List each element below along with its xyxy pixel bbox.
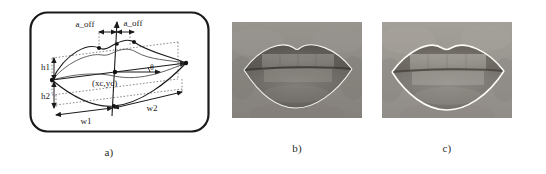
caption-a: a) (0, 146, 218, 158)
lip-model-diagram: a_off a_off h1 h2 w1 w2 (xc,yc) θ (0, 0, 218, 146)
h1-label: h1 (41, 62, 50, 72)
panel-a-diagram: a_off a_off h1 h2 w1 w2 (xc,yc) θ a) (0, 0, 218, 174)
center-point-label: (xc,yc) (92, 78, 117, 88)
w1-label: w1 (81, 116, 92, 126)
caption-c: c) (372, 142, 522, 154)
panel-b-photo: b) (222, 0, 372, 174)
theta-label: θ (150, 63, 154, 72)
lip-photo-b (232, 22, 362, 118)
caption-b: b) (222, 142, 372, 154)
lower-lip-curve (52, 63, 186, 106)
panel-c-photo: c) (372, 0, 522, 174)
h2-label: h2 (41, 91, 50, 101)
lip-photo-c (382, 22, 512, 118)
w1-measure-arrow (56, 108, 112, 115)
minor-axis (112, 22, 117, 116)
a-off-left-label: a_off (76, 19, 95, 29)
figure-root: a_off a_off h1 h2 w1 w2 (xc,yc) θ a) (0, 0, 546, 174)
a-off-right-label: a_off (124, 18, 143, 28)
w2-label: w2 (147, 103, 158, 113)
